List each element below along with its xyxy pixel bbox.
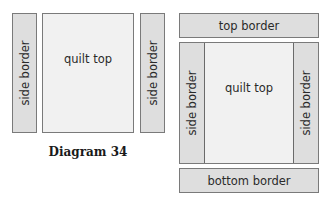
side-border-label: side border bbox=[18, 40, 32, 105]
top-border-piece: top border bbox=[179, 13, 319, 38]
assembled-quilt-frame: quilt top side border side border bbox=[179, 42, 319, 164]
bottom-border-label: bottom border bbox=[180, 174, 318, 188]
assembled-right-side-border: side border bbox=[294, 43, 318, 163]
left-side-border-piece: side border bbox=[12, 13, 37, 133]
side-border-label: side border bbox=[299, 70, 313, 135]
assembled-left-side-border: side border bbox=[180, 43, 204, 163]
side-border-label: side border bbox=[146, 40, 160, 105]
diagram-caption: Diagram 34 bbox=[42, 145, 134, 159]
bottom-border-piece: bottom border bbox=[179, 168, 319, 193]
quilt-top-label: quilt top bbox=[43, 52, 133, 66]
quilt-top-label: quilt top bbox=[204, 81, 294, 95]
quilt-top-piece: quilt top bbox=[42, 13, 134, 133]
left-seam-line bbox=[204, 43, 205, 163]
assembled-quilt-top: quilt top bbox=[204, 43, 294, 163]
right-side-border-piece: side border bbox=[140, 13, 165, 133]
top-border-label: top border bbox=[180, 19, 318, 33]
side-border-label: side border bbox=[185, 70, 199, 135]
